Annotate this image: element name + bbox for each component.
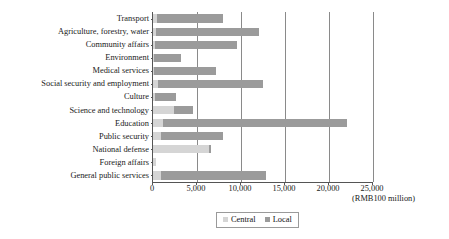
bar-segment-local bbox=[174, 106, 193, 114]
y-axis-category-label: Medical services bbox=[1, 64, 149, 77]
bar-segment-central bbox=[153, 132, 161, 140]
y-axis-category-label: Community affairs bbox=[1, 38, 149, 51]
chart-category-row: Education bbox=[1, 117, 373, 130]
bar-segment-local bbox=[155, 41, 237, 49]
y-axis-category-label: Public security bbox=[1, 130, 149, 143]
chart-category-row: Medical services bbox=[1, 64, 373, 77]
bar-segment-local bbox=[161, 132, 223, 140]
bar-segment-local bbox=[158, 80, 263, 88]
bar-segment-local bbox=[161, 171, 266, 179]
legend-item-local: Local bbox=[265, 214, 292, 225]
bar-segment-local bbox=[209, 145, 211, 153]
bar-segment-local bbox=[157, 14, 223, 22]
chart-category-row: General public services bbox=[1, 169, 373, 182]
bar-segment-central bbox=[153, 119, 163, 127]
x-axis-tick-label: 25,000 bbox=[342, 183, 402, 195]
gridline bbox=[373, 12, 374, 182]
y-axis-category-label: Foreign affairs bbox=[1, 156, 149, 169]
bar-segment-central bbox=[153, 106, 174, 114]
chart-category-row: Culture bbox=[1, 90, 373, 103]
bar-segment-local bbox=[155, 93, 176, 101]
chart-category-row: Environment bbox=[1, 51, 373, 64]
chart-category-row: National defense bbox=[1, 143, 373, 156]
x-axis-unit-label: (RMB100 million) bbox=[352, 194, 415, 203]
chart-category-row: Public security bbox=[1, 130, 373, 143]
bar-segment-central bbox=[153, 158, 156, 166]
y-axis-category-label: Social security and employment bbox=[1, 77, 149, 90]
chart-category-row: Transport bbox=[1, 12, 373, 25]
chart-category-row: Community affairs bbox=[1, 38, 373, 51]
chart-category-row: Science and technology bbox=[1, 104, 373, 117]
chart-category-row: Foreign affairs bbox=[1, 156, 373, 169]
plot-area: TransportAgriculture, forestry, waterCom… bbox=[152, 12, 373, 182]
bar-segment-local bbox=[154, 67, 216, 75]
y-axis-category-label: Culture bbox=[1, 90, 149, 103]
legend-swatch-local-icon bbox=[265, 217, 270, 222]
y-axis-category-label: Transport bbox=[1, 12, 149, 25]
bar-segment-local bbox=[156, 28, 259, 36]
chart-category-row: Social security and employment bbox=[1, 77, 373, 90]
chart-legend: Central Local bbox=[216, 212, 299, 228]
y-axis-category-label: Agriculture, forestry, water bbox=[1, 25, 149, 38]
y-axis-category-label: Science and technology bbox=[1, 104, 149, 117]
legend-label-central: Central bbox=[231, 214, 256, 225]
legend-item-central: Central bbox=[223, 214, 256, 225]
chart-category-row: Agriculture, forestry, water bbox=[1, 25, 373, 38]
bar-segment-central bbox=[153, 171, 161, 179]
bar-segment-local bbox=[154, 54, 181, 62]
bar-chart: TransportAgriculture, forestry, waterCom… bbox=[0, 0, 449, 239]
y-axis-category-label: General public services bbox=[1, 169, 149, 182]
y-axis-category-label: National defense bbox=[1, 143, 149, 156]
y-axis-category-label: Environment bbox=[1, 51, 149, 64]
legend-swatch-central-icon bbox=[223, 217, 228, 222]
legend-label-local: Local bbox=[273, 214, 292, 225]
bar-segment-central bbox=[153, 145, 209, 153]
bar-segment-local bbox=[163, 119, 347, 127]
y-axis-category-label: Education bbox=[1, 117, 149, 130]
